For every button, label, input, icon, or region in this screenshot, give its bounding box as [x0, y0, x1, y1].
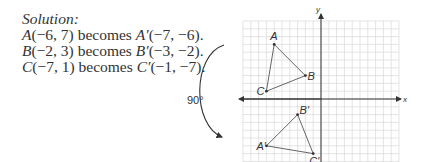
- vertex-label: C: [256, 85, 264, 97]
- vertex-point: [304, 74, 307, 77]
- triangles: ABCA′B′C′: [255, 30, 320, 162]
- coordinate-graph: ABCA′B′C′ 90° y x: [0, 0, 422, 162]
- vertex-label: C′: [309, 155, 320, 162]
- vertex-point: [273, 43, 276, 46]
- vertex-point: [296, 113, 299, 116]
- vertex-point: [265, 90, 268, 93]
- vertex-label: A: [269, 30, 277, 42]
- rotation-arrow-icon: [200, 45, 224, 137]
- y-axis-label: y: [315, 5, 321, 14]
- vertex-label: B′: [300, 104, 310, 116]
- rotation-angle-label: 90°: [187, 94, 204, 106]
- vertex-label: A′: [255, 140, 266, 152]
- vertex-label: B: [307, 70, 314, 82]
- x-axis-label: x: [402, 95, 408, 104]
